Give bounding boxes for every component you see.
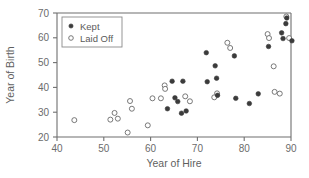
x-tick-label: 60 [145, 143, 157, 154]
x-tick-label: 50 [98, 143, 110, 154]
data-point [277, 91, 282, 96]
y-axis-ticks: 203040506070 [38, 8, 57, 143]
data-point [184, 109, 189, 114]
data-point [115, 116, 120, 121]
data-point [232, 54, 237, 59]
data-point [256, 92, 261, 97]
legend-label-kept: Kept [80, 21, 100, 32]
data-point [158, 96, 163, 101]
data-point [125, 130, 130, 135]
x-tick-label: 70 [192, 143, 204, 154]
y-tick-label: 50 [38, 57, 50, 68]
data-point [72, 118, 77, 123]
data-point [128, 99, 133, 104]
data-point [187, 99, 192, 104]
data-point [281, 36, 286, 41]
plot-area: 405060708090 203040506070 Kept Laid Off … [0, 0, 309, 178]
data-point [284, 16, 289, 21]
data-point [290, 38, 295, 43]
data-point [267, 36, 272, 41]
data-point [215, 93, 220, 98]
x-tick-label: 90 [285, 143, 297, 154]
y-tick-label: 30 [38, 107, 50, 118]
y-tick-label: 20 [38, 132, 50, 143]
data-point [183, 94, 188, 99]
data-point [179, 111, 184, 116]
x-axis-title: Year of Hire [146, 157, 201, 169]
data-point [228, 45, 233, 50]
data-point [129, 106, 134, 111]
legend-marker-kept [69, 24, 73, 28]
data-point [272, 89, 277, 94]
y-tick-label: 70 [38, 8, 50, 19]
data-point [284, 21, 289, 26]
x-axis-ticks: 405060708090 [51, 137, 297, 154]
data-point [266, 44, 271, 49]
data-point [271, 64, 276, 69]
x-tick-label: 80 [239, 143, 251, 154]
data-point [165, 106, 170, 111]
y-tick-label: 60 [38, 32, 50, 43]
data-point [163, 86, 168, 91]
data-point [150, 96, 155, 101]
data-point [181, 79, 186, 84]
data-point [279, 31, 284, 36]
chart-legend: Kept Laid Off [62, 17, 122, 47]
data-point [204, 50, 209, 55]
x-tick-label: 40 [51, 143, 63, 154]
data-point [214, 76, 219, 81]
data-point [213, 64, 218, 69]
y-axis-title: Year of Birth [4, 46, 16, 104]
data-point [108, 117, 113, 122]
y-tick-label: 40 [38, 82, 50, 93]
legend-label-laid-off: Laid Off [80, 33, 113, 44]
data-point [233, 96, 238, 101]
data-point [170, 79, 175, 84]
legend-marker-laid-off [69, 36, 74, 41]
data-point [145, 123, 150, 128]
data-point [175, 99, 180, 104]
data-point [112, 110, 117, 115]
data-point [225, 40, 230, 45]
data-point [247, 101, 252, 106]
scatter-chart: 405060708090 203040506070 Kept Laid Off … [0, 0, 309, 178]
data-point [205, 79, 210, 84]
